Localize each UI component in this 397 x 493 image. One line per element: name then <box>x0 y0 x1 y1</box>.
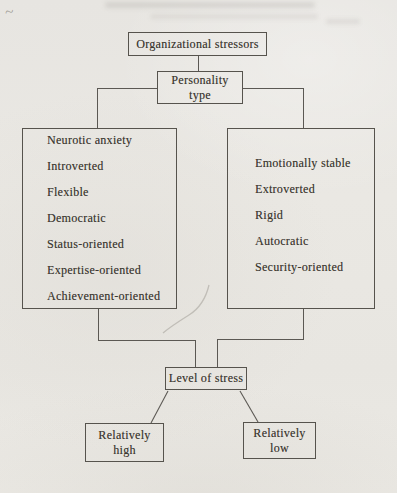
personality-type-box: Personality type <box>157 71 243 104</box>
bleedthrough-smudge <box>326 19 360 24</box>
trait-item: Neurotic anxiety <box>47 134 176 160</box>
trait-item: Extroverted <box>255 183 374 209</box>
trait-item: Expertise-oriented <box>47 264 176 290</box>
scan-artifact-mark: ~ <box>4 2 15 21</box>
bleedthrough-smudge <box>150 14 318 19</box>
trait-item: Flexible <box>47 186 176 212</box>
relatively-low-box: Relatively low <box>243 422 316 459</box>
personality-type-label: Personality type <box>171 73 228 103</box>
trait-item: Security-oriented <box>255 261 374 287</box>
scanned-flowchart-page: ~ Organizational stressors Personality t… <box>0 0 397 493</box>
trait-item: Democratic <box>47 212 176 238</box>
diagonal-connector-lines <box>151 391 258 423</box>
relatively-high-label: Relatively high <box>98 428 150 458</box>
trait-item: Emotionally stable <box>255 157 374 183</box>
relatively-low-label: Relatively low <box>253 426 305 456</box>
trait-item: Achievement-oriented <box>47 290 176 316</box>
bleedthrough-smudge <box>105 2 315 8</box>
right-personality-traits-box: Emotionally stable Extroverted Rigid Aut… <box>227 128 375 309</box>
level-of-stress-label: Level of stress <box>169 371 243 386</box>
trait-item: Introverted <box>47 160 176 186</box>
organizational-stressors-box: Organizational stressors <box>128 32 267 56</box>
left-personality-traits-box: Neurotic anxiety Introverted Flexible De… <box>22 128 177 309</box>
level-of-stress-box: Level of stress <box>165 367 247 390</box>
trait-item: Status-oriented <box>47 238 176 264</box>
trait-item: Rigid <box>255 209 374 235</box>
relatively-high-box: Relatively high <box>85 423 164 462</box>
organizational-stressors-label: Organizational stressors <box>136 37 259 52</box>
trait-item: Autocratic <box>255 235 374 261</box>
